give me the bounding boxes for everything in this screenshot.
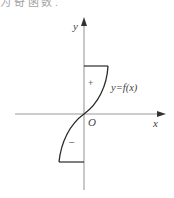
x-axis-label: x	[152, 117, 158, 129]
negative-region-sign: −	[69, 137, 75, 148]
x-axis-arrow-icon	[157, 111, 166, 117]
origin-label: O	[88, 116, 96, 128]
odd-function-diagram: y x O y=f(x) + −	[0, 0, 174, 198]
y-axis-arrow-icon	[81, 17, 87, 26]
positive-region-sign: +	[88, 78, 93, 88]
curve-label: y=f(x)	[110, 82, 138, 94]
y-axis	[81, 17, 87, 190]
y-axis-label: y	[72, 20, 78, 32]
